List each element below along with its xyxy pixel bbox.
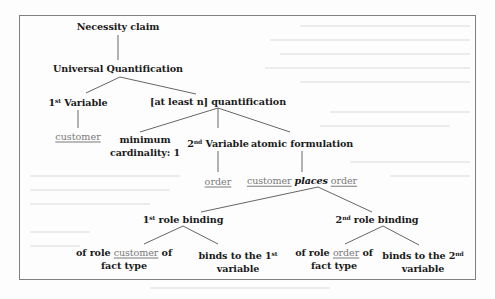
- node-label-line2: variable: [198, 262, 277, 275]
- node-second-variable-term: order: [205, 176, 232, 187]
- node-label: atomic formulation: [251, 138, 353, 149]
- node-second-role-binding: 2nd role binding: [336, 214, 419, 227]
- node-first-role-binding: 1st role binding: [143, 214, 224, 227]
- node-minimum-cardinality: minimum cardinality: 1: [110, 134, 180, 159]
- node-first-variable-term: customer: [55, 131, 100, 142]
- edge-rb2-role: [345, 226, 383, 244]
- node-atomic-formulation: atomic formulation: [251, 138, 353, 151]
- ordinal-number: 2: [336, 214, 343, 225]
- ordinal-suffix: st: [149, 214, 155, 221]
- node-label: Universal Quantification: [53, 63, 183, 74]
- node-second-binds-to-variable: binds to the 2nd variable: [382, 250, 463, 275]
- label-prefix: of role: [76, 247, 110, 258]
- node-universal-quantification: Universal Quantification: [53, 63, 183, 76]
- fact-object-term: order: [331, 175, 357, 186]
- node-first-variable: 1st Variable: [48, 97, 107, 110]
- node-second-role-of-fact-type: of role order of fact type: [295, 247, 372, 272]
- edge-atleast-mincard: [140, 108, 218, 132]
- edge-universal-var1: [86, 77, 120, 93]
- edge-universal-atleast: [120, 77, 196, 94]
- node-label: role binding: [354, 214, 419, 225]
- label-suffix: of: [362, 247, 372, 258]
- fact-verb: places: [295, 175, 328, 186]
- node-label-line1: binds to the 2nd: [382, 250, 463, 263]
- node-label-line1: minimum: [110, 134, 180, 147]
- ordinal-suffix: st: [55, 97, 61, 104]
- node-label-line1: of role customer of: [76, 247, 172, 260]
- label-text: binds to the 1: [198, 250, 271, 261]
- label-text: binds to the 2: [382, 250, 455, 261]
- ordinal-suffix: nd: [342, 214, 350, 221]
- node-label: Variable: [64, 97, 107, 108]
- label-suffix: of: [162, 247, 172, 258]
- node-first-binds-to-variable: binds to the 1st variable: [198, 250, 277, 275]
- node-label-line2: fact type: [295, 259, 372, 272]
- ordinal-number: 1: [143, 214, 150, 225]
- node-label-line1: binds to the 1st: [198, 250, 277, 263]
- edge-rb2-binds: [383, 226, 419, 245]
- edge-atleast-atomic: [218, 108, 290, 132]
- node-second-variable: 2nd Variable: [187, 138, 249, 151]
- node-at-least-n-quantification: [at least n] quantification: [150, 96, 286, 109]
- ordinal-suffix: st: [272, 250, 278, 257]
- edge-rb1-role: [144, 226, 183, 244]
- node-label: [at least n] quantification: [150, 96, 286, 107]
- ordinal-suffix: nd: [194, 138, 202, 145]
- label-prefix: of role: [295, 247, 329, 258]
- node-label: Variable: [205, 138, 248, 149]
- node-necessity-claim: Necessity claim: [77, 21, 160, 34]
- node-label: Necessity claim: [77, 21, 160, 32]
- node-label-line2: cardinality: 1: [110, 146, 180, 159]
- node-label: role binding: [159, 214, 224, 225]
- edge-fact-rb2: [318, 187, 372, 212]
- edge-fact-rb1: [201, 187, 318, 212]
- role-term: order: [333, 247, 359, 258]
- node-label-line2: variable: [382, 262, 463, 275]
- node-label-line2: fact type: [76, 259, 172, 272]
- ordinal-suffix: nd: [455, 250, 463, 257]
- node-fact-type-reading: customer places order: [247, 175, 357, 188]
- fact-subject-term: customer: [247, 175, 292, 186]
- edge-rb1-binds: [183, 226, 218, 244]
- node-label-line1: of role order of: [295, 247, 372, 260]
- node-first-role-of-fact-type: of role customer of fact type: [76, 247, 172, 272]
- role-term: customer: [114, 247, 159, 258]
